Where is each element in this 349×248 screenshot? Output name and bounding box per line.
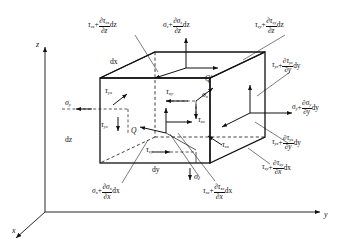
cube-right-face bbox=[210, 52, 265, 163]
equation-sigma-x-bottom-left: σx+∂σx∂xdx bbox=[92, 183, 120, 201]
x-axis bbox=[16, 212, 45, 238]
inner-label-sigma-z: σz bbox=[194, 172, 200, 181]
equation-tau-yz-right: τyz+∂τyz∂ydy bbox=[272, 58, 300, 74]
equation-tau-yx-right: τyx+∂τyx∂ydy bbox=[272, 135, 301, 151]
axis-label-x: x bbox=[12, 226, 16, 235]
point-label-q-prime: Q′ bbox=[205, 74, 212, 83]
cube-edge bbox=[100, 52, 155, 78]
equation-sigma-z-top: σz+∂σz∂zdz bbox=[163, 17, 190, 35]
inner-label-tau-zx: τzx bbox=[222, 140, 229, 149]
axis-label-y: y bbox=[324, 210, 328, 219]
inner-label-tau-xy: τxy bbox=[166, 87, 173, 96]
dimension-label-dy: dy bbox=[152, 165, 160, 174]
inner-label-sigma-x: σx bbox=[202, 90, 208, 99]
inner-label-tau-xz: τxz bbox=[198, 115, 205, 124]
inner-label-tau-yz: τyz bbox=[101, 120, 108, 129]
diagram-canvas bbox=[0, 0, 349, 248]
inner-label-sigma-y: σy bbox=[65, 98, 71, 107]
cube-top-face bbox=[100, 52, 265, 78]
equation-tau-xz-bottom-center: τxz+∂τxz∂xdx bbox=[203, 183, 232, 201]
axis-label-z: z bbox=[36, 40, 39, 49]
interior-stress-arrows bbox=[62, 88, 222, 180]
tau-zx-top-arrow bbox=[155, 68, 186, 78]
equation-tau-zx-top-left: τzx+∂τzx∂zdz bbox=[88, 17, 117, 35]
tau-yx-right-arrow bbox=[222, 113, 250, 127]
tau-zx-lower-arrow bbox=[140, 127, 166, 133]
inner-label-tau-zy: τzy bbox=[146, 145, 153, 154]
tau-yx-arrow bbox=[113, 94, 127, 105]
leader-tau-zx-top bbox=[135, 35, 158, 72]
stress-element-figure: z y x dx dz dy Q Q′ σy τyx τyz τxy σx τx… bbox=[0, 0, 349, 248]
leader-sigma-x-bottom bbox=[122, 140, 148, 183]
point-label-q: Q bbox=[131, 126, 136, 135]
dimension-label-dx: dx bbox=[110, 57, 118, 66]
inner-connector bbox=[166, 133, 196, 150]
equation-tau-zy-top-right: τzy+∂τzy∂zdz bbox=[255, 17, 284, 35]
inner-label-tau-yx: τyx bbox=[105, 86, 112, 95]
equation-tau-xy-bottom-right: τxy+∂τxy∂xdx bbox=[262, 160, 291, 176]
leader-tau-yz-right bbox=[257, 72, 290, 96]
dimension-label-dz: dz bbox=[65, 135, 72, 144]
leader-tau-zy-top bbox=[243, 35, 285, 60]
equation-sigma-y-right: σy+∂σy∂ydy bbox=[292, 100, 319, 116]
